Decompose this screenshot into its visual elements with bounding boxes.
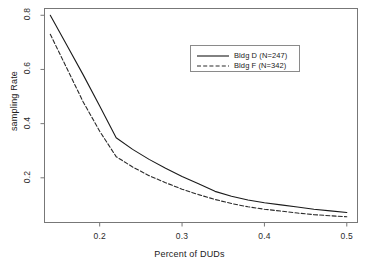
legend-key-dashed-line	[196, 61, 230, 71]
legend-key-solid-line	[196, 51, 230, 61]
chart-figure: 0.20.40.60.8 0.20.30.40.5 sampling Rate …	[0, 0, 379, 273]
x-axis-tick-label: 0.5	[337, 231, 357, 241]
legend-label-bldg-f: Bldg F (N=342)	[234, 61, 286, 70]
x-axis-tick-label: 0.2	[90, 231, 110, 241]
y-axis-tick-label: 0.2	[22, 167, 32, 187]
y-axis-title: sampling Rate	[9, 56, 19, 146]
y-axis-tick-label: 0.4	[22, 113, 32, 133]
y-axis-tick-label: 0.8	[22, 4, 32, 24]
legend-item-bldg-f: Bldg F (N=342)	[191, 60, 301, 71]
legend-label-bldg-d: Bldg D (N=247)	[234, 51, 287, 60]
x-axis-title: Percent of DUDs	[0, 249, 379, 259]
chart-legend: Bldg D (N=247) Bldg F (N=342)	[190, 45, 300, 72]
x-axis-tick-label: 0.4	[254, 231, 274, 241]
plot-frame	[45, 9, 358, 223]
y-axis-tick-label: 0.6	[22, 58, 32, 78]
x-axis-tick-label: 0.3	[172, 231, 192, 241]
